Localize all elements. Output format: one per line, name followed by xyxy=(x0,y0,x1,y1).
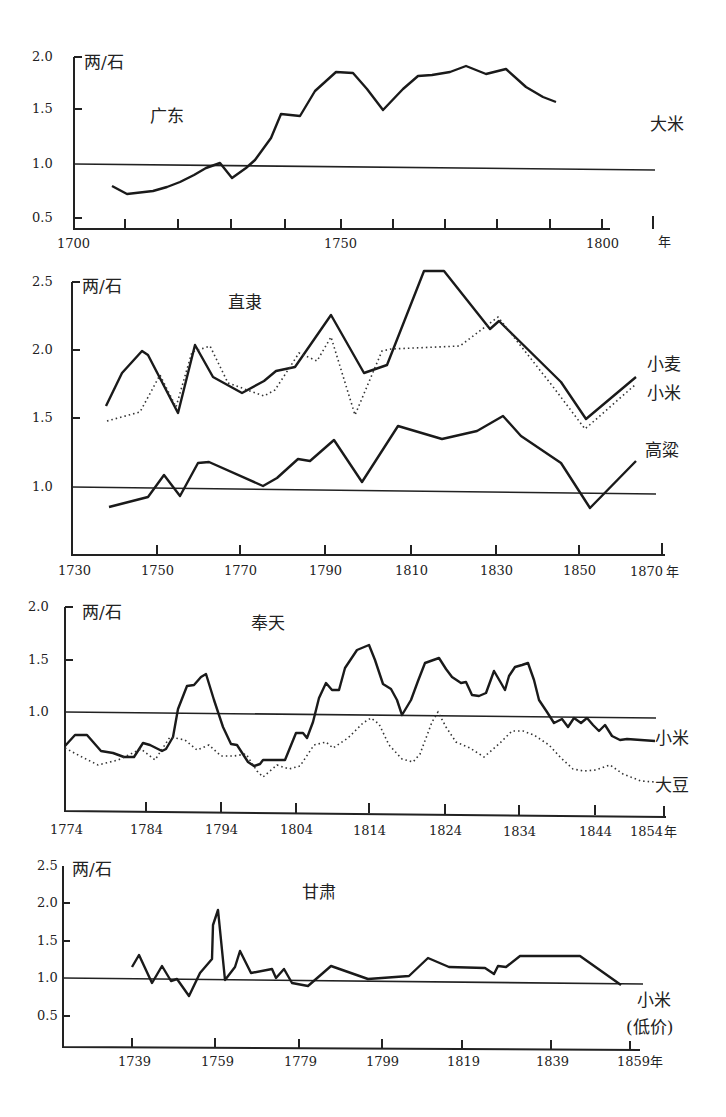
series-rice xyxy=(112,66,556,194)
y-tick-label: 1.0 xyxy=(32,156,53,171)
x-tick-label: 1824 xyxy=(429,823,462,838)
y-tick-label: 0.5 xyxy=(37,1008,58,1023)
year-suffix: 年 xyxy=(650,1054,663,1069)
y-tick-label: 1.0 xyxy=(32,479,53,494)
series-wheat xyxy=(106,271,636,419)
x-tick-label: 1770 xyxy=(224,563,257,578)
grain-price-figure: 2.0 1.5 1.0 0.5 1700 1750 1800 年 两/石 广东 … xyxy=(0,0,726,1117)
x-tick-label: 1870 xyxy=(630,564,663,579)
y-tick-label: 1.5 xyxy=(28,652,49,667)
y-tick-label: 2.0 xyxy=(32,49,53,64)
x-tick-label: 1810 xyxy=(395,563,428,578)
y-tick-label: 2.5 xyxy=(32,274,53,289)
x-tick-label: 1700 xyxy=(57,236,90,251)
unit-label: 两/石 xyxy=(84,52,124,72)
x-tick-label: 1794 xyxy=(205,822,238,837)
x-tick-label: 1730 xyxy=(58,563,91,578)
panel-guangdong: 2.0 1.5 1.0 0.5 1700 1750 1800 年 两/石 广东 … xyxy=(32,49,684,251)
x-tick-label: 1750 xyxy=(141,563,174,578)
y-tick-label: 1.0 xyxy=(28,704,49,719)
unit-label: 两/石 xyxy=(82,276,122,296)
x-tick-label: 1814 xyxy=(353,823,386,838)
x-tick-label: 1739 xyxy=(118,1054,151,1069)
axes xyxy=(63,866,640,1050)
series-label-low-price: (低价) xyxy=(626,1017,673,1037)
panel-zhili: 2.5 2.0 1.5 1.0 1730 1750 1770 1790 1810… xyxy=(32,271,681,579)
x-tick-label: 1779 xyxy=(284,1054,317,1069)
y-tick-label: 1.0 xyxy=(37,970,58,985)
y-tick-label: 2.0 xyxy=(32,342,53,357)
x-tick-label: 1859 xyxy=(617,1054,650,1069)
x-tick-label: 1844 xyxy=(579,824,612,839)
region-label: 直隶 xyxy=(228,292,262,312)
x-tick-label: 1839 xyxy=(536,1054,569,1069)
x-tick-label: 1750 xyxy=(324,236,357,251)
series-label-soybean: 大豆 xyxy=(655,775,689,795)
reference-line-1.0 xyxy=(74,164,655,170)
reference-line-1.0 xyxy=(65,712,656,718)
series-label-millet: 小米 xyxy=(637,990,671,1010)
series-sorghum xyxy=(109,416,636,508)
y-tick-label: 0.5 xyxy=(32,210,53,225)
y-tick-label: 1.5 xyxy=(37,933,58,948)
panel-fengtian: 2.0 1.5 1.0 1774 1784 1794 1804 1814 182… xyxy=(28,599,689,839)
x-tick-label: 1774 xyxy=(50,822,83,837)
series-label-sorghum: 高粱 xyxy=(645,440,679,460)
axes xyxy=(72,282,665,555)
series-label-millet: 小米 xyxy=(647,383,681,403)
x-tick-label: 1800 xyxy=(586,236,619,251)
series-label-wheat: 小麦 xyxy=(647,354,681,374)
x-tick-label: 1799 xyxy=(366,1054,399,1069)
series-millet xyxy=(65,645,655,766)
series-label-millet: 小米 xyxy=(655,728,689,748)
reference-line-1.0 xyxy=(72,487,656,494)
x-tick-label: 1834 xyxy=(503,824,536,839)
region-label: 甘肃 xyxy=(302,882,336,902)
x-tick-label: 1759 xyxy=(201,1054,234,1069)
axes xyxy=(74,57,610,229)
x-ticks xyxy=(157,543,662,555)
unit-label: 两/石 xyxy=(82,602,122,622)
x-tick-label: 1784 xyxy=(130,822,163,837)
y-tick-label: 2.5 xyxy=(37,858,58,873)
year-suffix: 年 xyxy=(666,564,679,579)
unit-label: 两/石 xyxy=(72,859,112,879)
x-tick-label: 1804 xyxy=(280,822,313,837)
y-tick-label: 1.5 xyxy=(32,101,53,116)
x-tick-label: 1854 xyxy=(630,824,663,839)
region-label: 广东 xyxy=(150,106,184,126)
y-tick-label: 2.0 xyxy=(28,599,49,614)
region-label: 奉天 xyxy=(251,613,285,633)
series-millet xyxy=(107,317,636,429)
x-tick-label: 1819 xyxy=(447,1054,480,1069)
y-tick-label: 2.0 xyxy=(37,895,58,910)
x-tick-label: 1790 xyxy=(309,563,342,578)
y-tick-label: 1.5 xyxy=(32,410,53,425)
year-suffix: 年 xyxy=(664,824,677,839)
axes xyxy=(65,607,666,817)
series-label-rice: 大米 xyxy=(650,114,684,134)
x-tick-label: 1850 xyxy=(563,563,596,578)
x-ticks xyxy=(125,216,653,229)
year-suffix: 年 xyxy=(658,234,671,249)
panel-gansu: 2.5 2.0 1.5 1.0 0.5 1739 1759 1779 1799 … xyxy=(37,858,673,1069)
x-tick-label: 1830 xyxy=(480,563,513,578)
